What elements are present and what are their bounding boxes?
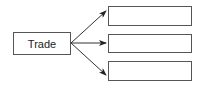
source-box-trade: Trade [13,32,71,55]
arrow-to-target-1 [71,11,106,43]
target-box-3 [108,61,192,81]
target-box-2 [108,34,192,53]
source-label: Trade [14,38,70,50]
target-box-1 [108,6,192,26]
arrow-to-target-3 [71,43,106,75]
